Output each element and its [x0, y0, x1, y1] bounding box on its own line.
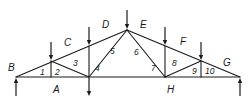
load-arrow-down-icon: [199, 42, 203, 60]
reaction-arrow-up-icon: [238, 78, 242, 96]
panel-label: 7: [151, 63, 156, 73]
panel-label: 2: [54, 67, 60, 77]
panel-label: 1: [40, 67, 45, 77]
panel-label: 5: [110, 46, 115, 56]
bow-notation-labels: ABCDEFGH12345678910: [8, 19, 231, 95]
load-arrow-down-icon: [125, 10, 129, 29]
load-arrow-down-icon: [49, 42, 53, 60]
region-label: F: [180, 36, 187, 47]
load-arrow-down-icon: [87, 27, 91, 45]
load-arrow-down-icon: [87, 78, 91, 96]
region-label: A: [52, 84, 60, 95]
truss-diagram: ABCDEFGH12345678910: [0, 0, 249, 108]
panel-label: 6: [134, 47, 139, 57]
truss-member: [127, 30, 165, 77]
region-label: G: [223, 57, 231, 68]
panel-label: 4: [95, 63, 100, 73]
load-arrow-down-icon: [163, 27, 167, 45]
reaction-arrow-up-icon: [14, 78, 18, 96]
region-label: E: [140, 19, 147, 30]
region-label: D: [102, 19, 109, 30]
panel-label: 8: [172, 58, 177, 68]
region-label: C: [64, 37, 72, 48]
region-label: B: [8, 62, 15, 73]
region-label: H: [167, 84, 175, 95]
panel-label: 10: [205, 66, 215, 76]
panel-label: 3: [73, 58, 78, 68]
force-arrows: [14, 10, 242, 96]
panel-label: 9: [192, 66, 197, 76]
